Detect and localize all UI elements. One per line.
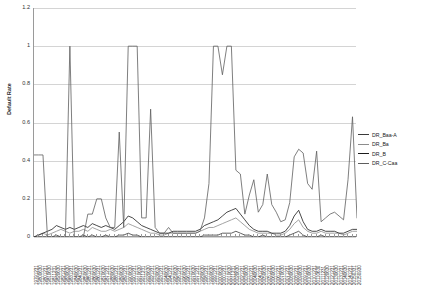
x-tick-mark (186, 234, 187, 237)
legend-color-swatch (358, 134, 369, 135)
legend-label: DR_B (372, 151, 386, 157)
x-tick-mark (311, 234, 312, 237)
x-tick-mark (226, 234, 227, 237)
legend-item[interactable]: DR_Baa-A (358, 130, 426, 140)
x-tick-mark (100, 234, 101, 237)
y-tick-label: 0.8 (4, 82, 30, 88)
x-tick-mark (329, 234, 330, 237)
x-tick-mark (257, 234, 258, 237)
x-axis-tick-labels: 1979123119800630198012311981063019811231… (33, 237, 356, 288)
y-tick-label: 0.4 (4, 158, 30, 164)
x-tick-mark (87, 234, 88, 237)
x-tick-mark (334, 234, 335, 237)
x-tick-mark (154, 234, 155, 237)
x-tick-mark (109, 234, 110, 237)
x-tick-mark (82, 234, 83, 237)
x-tick-mark (141, 234, 142, 237)
x-tick-mark (338, 234, 339, 237)
chart-legend: DR_Baa-ADR_BaDR_BDR_C-Caa (358, 130, 426, 168)
series-line (34, 208, 357, 237)
x-tick-mark (307, 234, 308, 237)
y-tick-label: 0.2 (4, 196, 30, 202)
x-tick-mark (172, 234, 173, 237)
x-tick-mark (123, 234, 124, 237)
x-tick-mark (168, 234, 169, 237)
x-tick-mark (253, 234, 254, 237)
x-tick-mark (78, 234, 79, 237)
x-tick-mark (64, 234, 65, 237)
x-tick-mark (235, 234, 236, 237)
x-tick-mark (208, 234, 209, 237)
x-tick-mark (271, 234, 272, 237)
y-tick-label: 0 (4, 234, 30, 240)
x-tick-mark (114, 234, 115, 237)
x-tick-mark (55, 234, 56, 237)
legend-label: DR_Ba (372, 141, 389, 147)
legend-item[interactable]: DR_Ba (358, 140, 426, 150)
legend-item[interactable]: DR_B (358, 149, 426, 159)
x-tick-mark (289, 234, 290, 237)
x-tick-mark (91, 234, 92, 237)
x-tick-mark (343, 234, 344, 237)
x-tick-mark (177, 234, 178, 237)
legend-label: DR_C-Caa (372, 160, 397, 166)
x-tick-mark (352, 234, 353, 237)
x-tick-mark (302, 234, 303, 237)
x-tick-mark (280, 234, 281, 237)
x-tick-mark (118, 234, 119, 237)
legend-color-swatch (358, 163, 369, 164)
x-tick-mark (320, 234, 321, 237)
x-tick-mark (136, 234, 137, 237)
x-tick-mark (181, 234, 182, 237)
x-tick-mark (316, 234, 317, 237)
x-tick-mark (127, 234, 128, 237)
legend-color-swatch (358, 153, 369, 154)
x-tick-mark (150, 234, 151, 237)
chart-container: Default Rate 00.20.40.60.811.2 197912311… (0, 0, 426, 288)
x-tick-label: 20150930 (358, 265, 363, 285)
x-tick-mark (212, 234, 213, 237)
y-tick-label: 1 (4, 43, 30, 49)
x-tick-mark (325, 234, 326, 237)
x-tick-mark (51, 234, 52, 237)
x-tick-mark (221, 234, 222, 237)
legend-color-swatch (358, 144, 369, 145)
x-tick-mark (60, 234, 61, 237)
x-tick-mark (132, 234, 133, 237)
x-tick-mark (217, 234, 218, 237)
x-tick-mark (73, 234, 74, 237)
x-tick-mark (163, 234, 164, 237)
x-tick-mark (244, 234, 245, 237)
x-tick-mark (145, 234, 146, 237)
legend-item[interactable]: DR_C-Caa (358, 159, 426, 169)
x-tick-mark (33, 234, 34, 237)
x-tick-mark (239, 234, 240, 237)
x-tick-mark (275, 234, 276, 237)
series-lines (34, 8, 356, 236)
x-tick-mark (199, 234, 200, 237)
series-line (34, 46, 357, 237)
x-tick-mark (266, 234, 267, 237)
y-axis-tick-labels: 00.20.40.60.811.2 (0, 0, 30, 288)
x-tick-mark (347, 234, 348, 237)
legend-label: DR_Baa-A (372, 132, 397, 138)
x-tick-mark (96, 234, 97, 237)
y-tick-label: 0.6 (4, 120, 30, 126)
x-tick-mark (248, 234, 249, 237)
y-tick-label: 1.2 (4, 5, 30, 11)
x-tick-mark (69, 234, 70, 237)
x-tick-mark (230, 234, 231, 237)
x-tick-mark (190, 234, 191, 237)
x-tick-mark (284, 234, 285, 237)
x-tick-mark (203, 234, 204, 237)
x-tick-mark (37, 234, 38, 237)
x-tick-mark (293, 234, 294, 237)
x-tick-mark (356, 234, 357, 237)
x-tick-mark (42, 234, 43, 237)
x-tick-mark (159, 234, 160, 237)
x-tick-mark (262, 234, 263, 237)
x-tick-mark (46, 234, 47, 237)
x-tick-mark (195, 234, 196, 237)
plot-area (33, 8, 356, 237)
x-tick-mark (105, 234, 106, 237)
